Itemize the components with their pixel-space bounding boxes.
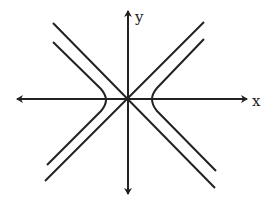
- hyperbola-diagram: x y: [0, 0, 275, 208]
- asymptote-negative-slope: [53, 23, 215, 188]
- asymptote-positive-slope: [45, 22, 204, 181]
- y-axis-label: y: [134, 8, 144, 26]
- origin-point: [126, 97, 130, 101]
- hyperbola-right-branch: [152, 39, 216, 171]
- x-axis-label: x: [252, 92, 261, 110]
- hyperbola-left-branch: [47, 42, 106, 165]
